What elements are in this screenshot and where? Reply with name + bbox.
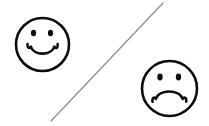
sad-face-right-eye <box>176 74 181 81</box>
happy-face-left-eye <box>31 30 36 37</box>
image-canvas: Smiley face and sad face separated by a … <box>0 0 209 126</box>
happy-face-outline-circle <box>16 18 69 71</box>
sad-face-outline-circle <box>142 61 197 116</box>
happy-face-right-eye <box>48 30 53 37</box>
drawing-scene <box>0 0 209 126</box>
sad-face-group <box>142 61 197 116</box>
happy-face-group <box>16 18 69 71</box>
sad-face-left-eye <box>157 74 162 81</box>
